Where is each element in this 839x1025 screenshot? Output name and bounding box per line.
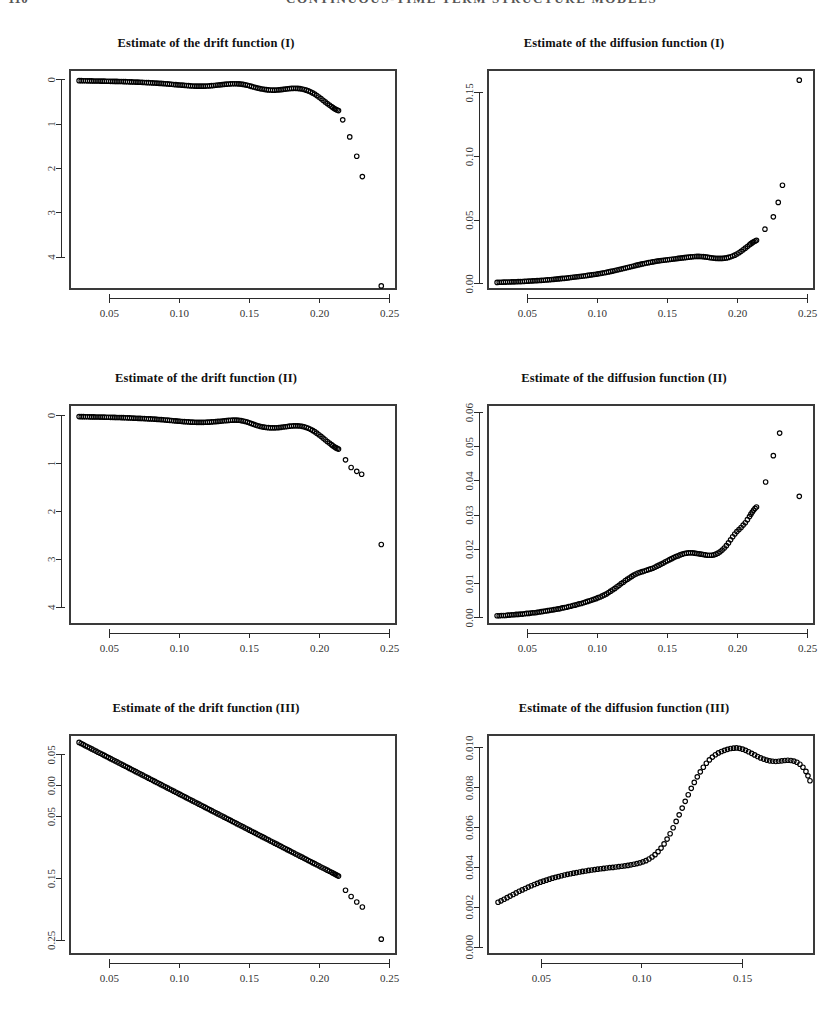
plot-drift-ii: 0.050.100.150.200.2501234 [6,391,406,666]
svg-text:0.05: 0.05 [518,642,538,654]
plot-drift-i: 0.050.100.150.200.2501234 [6,56,406,331]
svg-text:0.25: 0.25 [798,642,818,654]
svg-text:0.10: 0.10 [170,307,190,319]
panel-title: Estimate of the drift function (III) [6,701,406,716]
svg-text:0.10: 0.10 [170,972,190,984]
svg-text:0.05: 0.05 [100,307,120,319]
svg-text:0.02: 0.02 [463,540,475,559]
svg-text:0.20: 0.20 [728,307,748,319]
svg-text:0.000: 0.000 [463,934,475,959]
panel-title: Estimate of the drift function (II) [6,371,406,386]
svg-text:0.15: 0.15 [463,83,475,103]
svg-text:2: 2 [45,166,57,172]
svg-text:0.15: 0.15 [45,868,57,888]
svg-text:0.25: 0.25 [380,972,400,984]
svg-text:0.20: 0.20 [728,642,748,654]
plot-diffusion-iii: 0.050.100.150.0000.0020.0040.0060.0080.0… [424,721,824,996]
svg-text:0.15: 0.15 [240,642,260,654]
svg-text:0.05: 0.05 [532,972,552,984]
plot-diffusion-ii: 0.050.100.150.200.250.000.010.020.030.04… [424,391,824,666]
svg-text:0: 0 [45,412,57,418]
svg-text:0.15: 0.15 [733,972,753,984]
svg-text:0.10: 0.10 [588,307,608,319]
svg-text:0.15: 0.15 [658,307,678,319]
panel-title: Estimate of the drift function (I) [6,36,406,51]
panel-diffusion-iii: Estimate of the diffusion function (III)… [424,701,824,996]
svg-text:0.25: 0.25 [380,307,400,319]
svg-text:0.05: 0.05 [463,210,475,230]
svg-text:0.05: 0.05 [518,307,538,319]
svg-text:0.10: 0.10 [632,972,652,984]
svg-text:0.004: 0.004 [463,855,475,880]
svg-text:0.25: 0.25 [45,930,57,950]
svg-text:3: 3 [45,556,57,562]
panel-title: Estimate of the diffusion function (II) [424,371,824,386]
plot-diffusion-i: 0.050.100.150.200.250.000.050.100.15 [424,56,824,331]
svg-text:0.06: 0.06 [463,402,475,422]
svg-text:0.05: 0.05 [45,745,57,765]
plot-drift-iii: 0.050.100.150.200.250.050.000.050.150.25 [6,721,406,996]
svg-text:0.002: 0.002 [463,895,475,920]
svg-text:0: 0 [45,77,57,83]
svg-text:0.20: 0.20 [310,642,330,654]
svg-text:0.05: 0.05 [100,642,120,654]
svg-text:0.00: 0.00 [463,608,475,628]
svg-text:4: 4 [45,254,57,260]
svg-text:0.00: 0.00 [45,776,57,796]
panel-diffusion-i: Estimate of the diffusion function (I) 0… [424,36,824,331]
panel-title: Estimate of the diffusion function (III) [424,701,824,716]
svg-text:0.10: 0.10 [588,642,608,654]
svg-text:0.10: 0.10 [463,146,475,166]
svg-text:0.00: 0.00 [463,274,475,294]
svg-text:4: 4 [45,604,57,610]
svg-text:0.04: 0.04 [463,471,475,491]
svg-text:2: 2 [45,509,57,515]
svg-text:0.15: 0.15 [240,307,260,319]
svg-text:0.10: 0.10 [170,642,190,654]
svg-text:0.008: 0.008 [463,775,475,800]
panel-diffusion-ii: Estimate of the diffusion function (II) … [424,371,824,666]
svg-text:1: 1 [45,121,57,127]
svg-text:0.25: 0.25 [380,642,400,654]
panel-drift-ii: Estimate of the drift function (II) 0.05… [6,371,406,666]
svg-text:0.15: 0.15 [240,972,260,984]
svg-text:0.05: 0.05 [45,807,57,827]
svg-text:0.01: 0.01 [463,574,475,593]
svg-text:0.05: 0.05 [100,972,120,984]
panel-title: Estimate of the diffusion function (I) [424,36,824,51]
svg-text:0.25: 0.25 [798,307,818,319]
svg-text:0.20: 0.20 [310,307,330,319]
figure-grid: Estimate of the drift function (I) 0.050… [0,0,839,1025]
svg-text:0.03: 0.03 [463,505,475,525]
svg-text:0.010: 0.010 [463,735,475,760]
svg-text:0.20: 0.20 [310,972,330,984]
panel-drift-iii: Estimate of the drift function (III) 0.0… [6,701,406,996]
svg-text:3: 3 [45,209,57,215]
svg-text:0.006: 0.006 [463,815,475,840]
panel-drift-i: Estimate of the drift function (I) 0.050… [6,36,406,331]
svg-text:0.15: 0.15 [658,642,678,654]
svg-text:0.05: 0.05 [463,437,475,457]
svg-text:1: 1 [45,461,57,467]
